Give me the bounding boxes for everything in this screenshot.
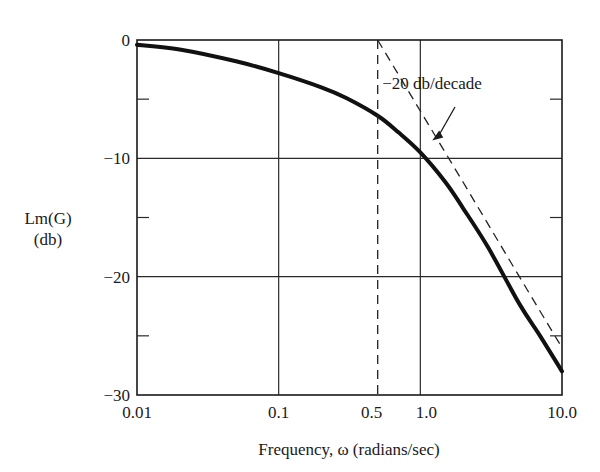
x-tick-label: 0.5 — [361, 403, 382, 422]
data-series — [137, 40, 562, 395]
plot-border — [137, 40, 562, 395]
magnitude-curve — [137, 45, 562, 372]
x-axis-ticks: 0.010.10.51.010.0 — [122, 403, 577, 422]
y-axis-ticks: 0−10−20−30 — [103, 31, 562, 405]
y-tick-label: −10 — [103, 149, 130, 168]
y-tick-label: −20 — [103, 268, 130, 287]
x-tick-label: 10.0 — [547, 403, 577, 422]
y-axis-label-line2: (db) — [34, 230, 62, 249]
x-tick-label: 0.1 — [268, 403, 289, 422]
y-tick-label: −30 — [103, 386, 130, 405]
slope-annotation: −20 db/decade — [382, 74, 482, 93]
bode-magnitude-chart: 0.010.10.51.010.0 0−10−20−30 Lm(G) (db) … — [0, 0, 600, 472]
y-tick-label: 0 — [122, 31, 131, 50]
x-tick-label: 1.0 — [416, 403, 437, 422]
grid-lines — [137, 40, 562, 395]
x-tick-label: 0.01 — [122, 403, 152, 422]
y-axis-label-line1: Lm(G) — [24, 209, 71, 228]
plot-frame — [137, 40, 562, 395]
x-axis-label: Frequency, ω (radians/sec) — [258, 440, 439, 459]
